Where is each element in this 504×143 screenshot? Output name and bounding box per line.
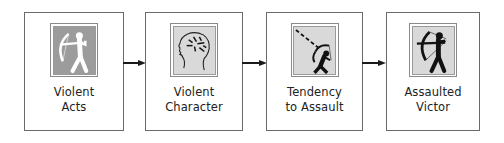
icon-frame bbox=[291, 23, 339, 77]
node-assaulted-victor: Assaulted Victor bbox=[386, 12, 480, 131]
archer-white-icon bbox=[54, 27, 95, 74]
archer-aiming-up-icon bbox=[294, 27, 335, 74]
archer-black-icon bbox=[413, 27, 454, 74]
node-label: Assaulted Victor bbox=[387, 85, 479, 115]
node-violent-acts: Violent Acts bbox=[24, 12, 124, 131]
icon-frame bbox=[409, 23, 457, 77]
arrowhead-icon bbox=[378, 60, 386, 66]
arrow-1-to-2 bbox=[123, 57, 146, 69]
node-label: Tendency to Assault bbox=[267, 85, 362, 115]
icon-frame bbox=[50, 23, 98, 77]
node-tendency-to-assault: Tendency to Assault bbox=[266, 12, 363, 131]
arrow-2-to-3 bbox=[242, 57, 267, 69]
node-violent-character: Violent Character bbox=[145, 12, 243, 131]
node-label: Violent Character bbox=[146, 85, 242, 115]
icon-frame bbox=[170, 23, 218, 77]
node-label: Violent Acts bbox=[25, 85, 123, 115]
head-profile-brain-icon bbox=[174, 27, 215, 74]
arrow-3-to-4 bbox=[362, 57, 386, 69]
